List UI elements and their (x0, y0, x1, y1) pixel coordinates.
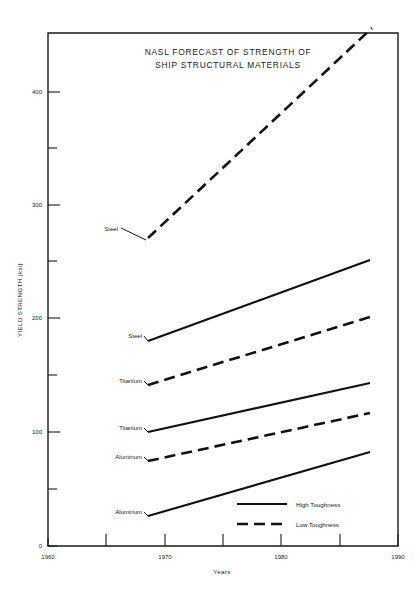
y-ticklabel-200: 200 (32, 315, 43, 321)
series-label-text: Steel (128, 333, 142, 339)
legend-item-high-toughness: High Toughness (237, 501, 340, 508)
x-ticklabel-1980: 1980 (274, 554, 288, 560)
x-axis-ticklabels: 1960 1970 1980 1990 (41, 554, 405, 560)
legend-label-low-toughness: Low Toughness (296, 521, 339, 528)
series-label-text: Aluminum (115, 454, 142, 460)
series-titanium-low-toughness (148, 317, 370, 385)
series-label-titanium-high: Titanium (119, 425, 148, 432)
plot-frame (48, 33, 398, 546)
chart-title-line1: NASL FORECAST OF STRENGTH OF (145, 47, 312, 57)
legend-label-high-toughness: High Toughness (296, 501, 340, 508)
series-steel-high-toughness (148, 260, 370, 341)
series-label-steel-high: Steel (128, 333, 148, 341)
series-label-text: Titanium (119, 425, 142, 431)
series-titanium-high-toughness (148, 383, 370, 432)
chart-svg: 0 100 200 300 400 1960 1970 1980 1990 Ye… (0, 0, 420, 596)
series-label-text: Titanium (119, 378, 142, 384)
axis-box (48, 33, 398, 546)
x-ticklabel-1990: 1990 (391, 554, 405, 560)
chart-title: NASL FORECAST OF STRENGTH OF SHIP STRUCT… (145, 47, 312, 70)
y-ticklabel-100: 100 (32, 429, 43, 435)
series-label-aluminum-high: Aluminum (115, 509, 148, 516)
legend-item-low-toughness: Low Toughness (237, 521, 339, 528)
series-label-aluminum-low: Aluminum (115, 454, 148, 461)
x-axis-ticks (48, 534, 398, 546)
series-label-steel-low: Steel (104, 226, 146, 240)
series-label-text: Aluminum (115, 509, 142, 515)
y-axis-ticks (48, 92, 60, 546)
y-axis-title: YIELD STRENGTH (ksi) (16, 263, 23, 337)
x-axis-title: Years (213, 568, 230, 575)
chart-figure: 0 100 200 300 400 1960 1970 1980 1990 Ye… (0, 0, 420, 596)
chart-legend: High Toughness Low Toughness (237, 501, 340, 528)
chart-title-line2: SHIP STRUCTURAL MATERIALS (155, 60, 301, 70)
series-label-titanium-low: Titanium (119, 378, 148, 385)
y-axis-ticklabels: 0 100 200 300 400 (32, 89, 43, 549)
y-ticklabel-300: 300 (32, 202, 43, 208)
x-ticklabel-1960: 1960 (41, 554, 55, 560)
series-label-text: Steel (104, 226, 118, 232)
series-aluminum-low-toughness (148, 413, 370, 461)
x-ticklabel-1970: 1970 (158, 554, 172, 560)
y-ticklabel-0: 0 (39, 543, 43, 549)
y-ticklabel-400: 400 (32, 89, 43, 95)
